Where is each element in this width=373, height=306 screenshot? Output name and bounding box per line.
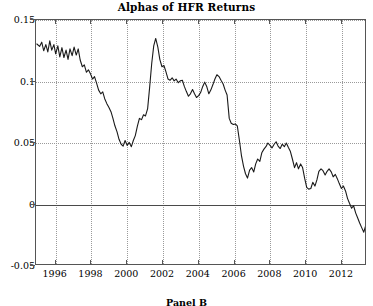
x-axis-tick-label: 2002 <box>150 268 174 279</box>
y-axis-tick-mark <box>30 19 35 20</box>
x-axis-tick-mark-bottom <box>126 260 127 265</box>
x-axis-tick-mark-top <box>55 19 56 24</box>
x-axis-tick-mark-bottom <box>55 260 56 265</box>
x-axis-tick-mark-top <box>305 19 306 24</box>
x-axis-tick-mark-top <box>162 19 163 24</box>
chart-title: Alphas of HFR Returns <box>0 1 373 13</box>
y-axis-tick-mark <box>30 81 35 82</box>
figure-caption: Panel B <box>0 297 373 306</box>
x-axis-tick-mark-bottom <box>198 260 199 265</box>
x-axis-tick-label: 1996 <box>43 268 67 279</box>
x-axis-tick-mark-bottom <box>90 260 91 265</box>
x-axis-tick-label: 2010 <box>293 268 317 279</box>
x-axis-tick-label: 2006 <box>222 268 246 279</box>
x-axis-tick-mark-bottom <box>341 260 342 265</box>
x-axis-tick-mark-bottom <box>269 260 270 265</box>
series-path <box>37 38 366 232</box>
x-axis-tick-label: 1998 <box>78 268 102 279</box>
chart-figure: Alphas of HFR Returns -0.0500.050.10.15 … <box>0 0 373 306</box>
y-axis-tick-mark <box>30 265 35 266</box>
x-axis-tick-mark-top <box>341 19 342 24</box>
x-axis-tick-label: 2000 <box>114 268 138 279</box>
x-axis-tick-label: 2012 <box>329 268 353 279</box>
x-axis-tick-label: 2008 <box>257 268 281 279</box>
x-axis-tick-mark-top <box>198 19 199 24</box>
plot-area <box>35 19 366 265</box>
x-axis-tick-mark-bottom <box>305 260 306 265</box>
y-axis-tick-mark <box>30 204 35 205</box>
x-axis-tick-mark-top <box>269 19 270 24</box>
x-axis-tick-mark-top <box>234 19 235 24</box>
x-axis-tick-mark-top <box>90 19 91 24</box>
x-axis-tick-label: 2004 <box>186 268 210 279</box>
x-axis-tick-mark-bottom <box>162 260 163 265</box>
x-axis-tick-mark-bottom <box>234 260 235 265</box>
x-axis-tick-mark-top <box>126 19 127 24</box>
y-axis-tick-mark <box>30 142 35 143</box>
alpha-series-line <box>36 20 366 265</box>
